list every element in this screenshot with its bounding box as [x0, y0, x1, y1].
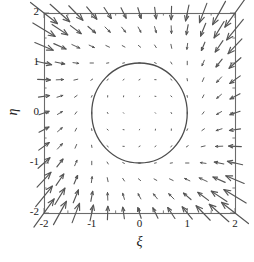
x-tick-label: 0 [131, 217, 149, 229]
limit-cycle-circle [92, 63, 188, 163]
x-tick-label: -1 [83, 217, 101, 229]
y-axis-label: η [5, 97, 21, 127]
y-tick-label: -1 [19, 155, 39, 167]
axes-box [45, 14, 236, 214]
figure-container: -2-1012-2-1012ξη [0, 0, 254, 262]
y-tick-label: 2 [19, 5, 39, 17]
quiver-arrows [31, 0, 249, 227]
y-tick-label: 0 [19, 105, 39, 117]
axis-ticks [44, 13, 235, 213]
x-tick-label: 1 [178, 217, 196, 229]
y-tick-label: 1 [19, 55, 39, 67]
x-tick-label: -2 [35, 217, 53, 229]
x-tick-label: 2 [226, 217, 244, 229]
y-tick-label: -2 [19, 205, 39, 217]
x-axis-label: ξ [133, 234, 147, 250]
